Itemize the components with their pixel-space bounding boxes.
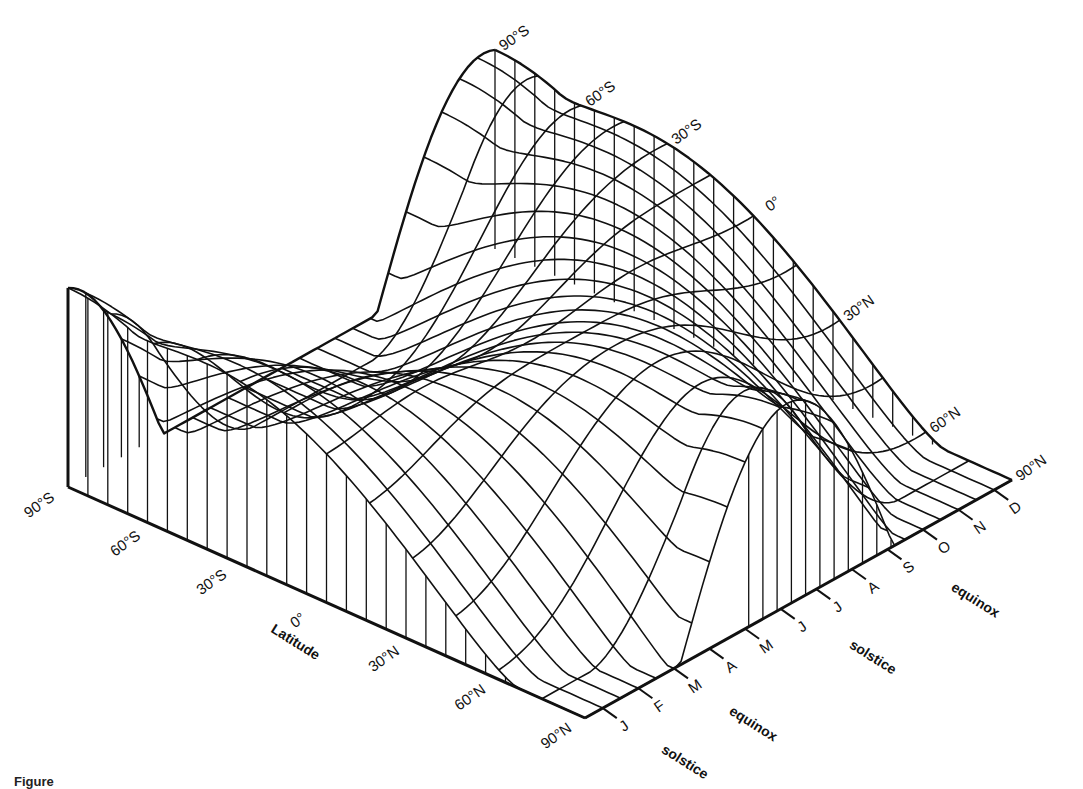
month-tick-label: J [616,716,632,734]
latitude-tick-label: 60°S [107,527,144,560]
month-tick [710,649,724,659]
month-tick [674,668,688,678]
month-tick-label: D [1006,497,1025,517]
latitude-curve [240,144,667,382]
back-edge-label: 60°N [926,403,963,436]
latitude-curve [585,400,1012,718]
month-tick-label: N [970,517,989,537]
latitude-curve [197,122,624,400]
back-edge-label: 0° [762,192,784,214]
month-tick [852,569,866,579]
back-edge-label: 30°N [840,291,877,324]
season-annotation: equinox [727,702,781,744]
back-edge-label: 90°S [496,21,533,54]
latitude-tick-label: 30°S [193,565,230,598]
month-tick [816,589,830,599]
month-tick [994,490,1008,500]
season-annotation: equinox [949,579,1003,621]
latitude-curve [499,377,926,670]
month-tick [923,530,937,540]
month-tick [888,549,902,559]
month-tick-label: A [721,656,739,676]
month-tick-label: F [651,696,668,715]
month-curve [228,360,745,462]
back-edge-label: 90°N [1012,451,1049,484]
back-edge-label: 60°S [582,77,619,110]
latitude-tick-label: 60°N [451,680,488,713]
latitude-curve [542,388,969,699]
month-curve [388,237,905,540]
season-annotation: solstice [847,636,900,677]
month-tick-label: O [934,537,953,558]
surface-mesh [68,50,1012,718]
month-tick [959,510,973,520]
month-tick [603,708,617,718]
month-tick-label: J [794,617,810,635]
month-tick [638,688,652,698]
back-edge-label: 30°S [668,115,705,148]
season-annotation: solstice [659,741,712,782]
latitude-tick-label: 90°S [21,488,58,521]
month-curve [139,365,656,678]
month-tick-label: J [829,597,845,615]
month-curve [193,371,710,562]
month-tick-label: A [864,577,882,597]
month-tick-label: S [899,557,917,577]
figure-caption: Figure [14,774,54,789]
latitude-tick-label: 30°N [365,642,402,675]
month-tick [745,629,759,639]
month-curve [86,293,603,708]
latitude-curve [456,351,883,616]
month-tick [781,609,795,619]
latitude-curve [413,320,840,558]
surface-walls [68,50,933,718]
month-curve [442,112,959,510]
month-curve [299,322,816,405]
latitude-tick-label: 90°N [537,719,574,752]
month-axis-line [585,480,1012,718]
